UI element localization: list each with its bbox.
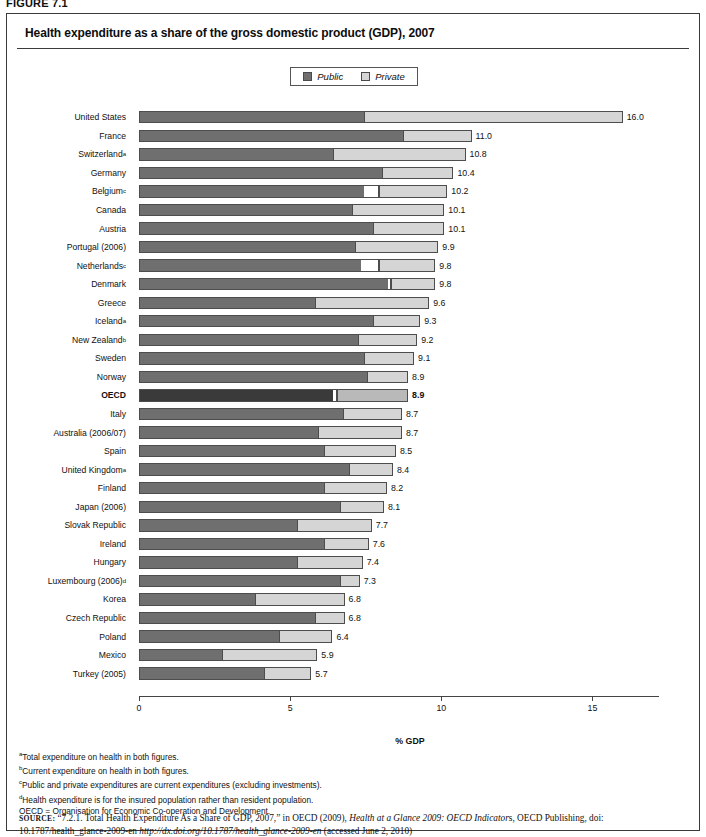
stacked-bar <box>139 352 414 364</box>
bar-value-label: 10.1 <box>448 205 465 215</box>
bar-area: 8.9 <box>139 368 701 387</box>
legend-swatch-private-icon <box>361 72 370 81</box>
legend-label-public: Public <box>317 71 343 82</box>
country-label: Austria <box>7 219 132 238</box>
x-axis-line <box>139 696 659 697</box>
bar-area: 9.2 <box>139 331 701 350</box>
country-label: Ireland <box>7 535 132 554</box>
bar-segment-private <box>222 650 317 660</box>
bar-area: 10.2 <box>139 182 701 201</box>
country-label: Korea <box>7 590 132 609</box>
country-label: Greece <box>7 293 132 312</box>
title-divider <box>17 48 689 49</box>
x-axis-tick-label: 10 <box>436 703 446 713</box>
country-label: Spain <box>7 442 132 461</box>
bar-segment-public <box>140 502 340 512</box>
chart-row: Greece9.6 <box>7 293 701 312</box>
stacked-bar <box>139 371 408 383</box>
bar-segment-public <box>140 464 349 474</box>
stacked-bar <box>139 204 444 216</box>
bar-segment-public <box>140 279 388 289</box>
bar-area: 8.7 <box>139 423 701 442</box>
bar-area: 8.2 <box>139 479 701 498</box>
bar-value-label: 7.3 <box>364 576 376 586</box>
bar-value-label: 9.8 <box>439 261 451 271</box>
bar-segment-private <box>373 223 444 233</box>
bar-segment-public <box>140 242 355 252</box>
chart-row: Netherlandsc9.8 <box>7 256 701 275</box>
bar-segment-gap <box>364 186 379 196</box>
bar-value-label: 6.4 <box>336 632 348 642</box>
bar-segment-public <box>140 335 358 345</box>
bar-segment-public <box>140 409 343 419</box>
bar-segment-private <box>324 483 386 493</box>
bar-segment-public <box>140 576 340 586</box>
bar-segment-public <box>140 260 361 270</box>
bar-segment-private <box>324 539 367 549</box>
stacked-bar <box>139 612 345 624</box>
source-citation: SOURCE: “7.2.1. Total Health Expenditure… <box>19 812 683 837</box>
stacked-bar <box>139 389 408 401</box>
chart-row: Switzerlanda10.8 <box>7 145 701 164</box>
stacked-bar <box>139 445 396 457</box>
chart-row: OECD8.9 <box>7 386 701 405</box>
bar-value-label: 9.9 <box>442 242 454 252</box>
footnote-marker: d <box>19 794 22 800</box>
bar-area: 9.1 <box>139 349 701 368</box>
x-axis-tick <box>290 696 291 701</box>
country-label: Portugal (2006) <box>7 238 132 257</box>
bar-area: 7.3 <box>139 572 701 591</box>
chart-row: Denmark9.8 <box>7 275 701 294</box>
footnote-marker: a <box>123 318 126 324</box>
bar-segment-public <box>140 390 333 400</box>
bar-segment-private <box>315 613 343 623</box>
stacked-bar <box>139 241 438 253</box>
legend-box: Public Private <box>290 67 417 86</box>
footnote-marker: a <box>123 151 126 157</box>
bar-chart-plot: United States16.0France11.0Switzerlanda1… <box>7 108 701 688</box>
chart-row: United Kingdoma8.4 <box>7 460 701 479</box>
country-label: OECD <box>7 386 132 405</box>
x-axis: 051015 <box>139 696 659 736</box>
source-doi-link[interactable]: http://dx.doi.org/10.1787/health_glance-… <box>139 826 321 836</box>
bar-value-label: 8.9 <box>412 390 424 400</box>
x-axis-tick-label: 0 <box>137 703 142 713</box>
bar-value-label: 6.8 <box>349 613 361 623</box>
bar-segment-public <box>140 427 318 437</box>
bar-segment-public <box>140 353 364 363</box>
bar-segment-public <box>140 205 352 215</box>
chart-row: Italy8.7 <box>7 405 701 424</box>
chart-row: Australia (2006/07)8.7 <box>7 423 701 442</box>
bar-segment-private <box>340 576 359 586</box>
bar-segment-public <box>140 557 297 567</box>
bar-segment-public <box>140 594 255 604</box>
figure-number: FIGURE 7.1 <box>6 0 68 9</box>
bar-segment-public <box>140 446 324 456</box>
bar-segment-private <box>379 186 447 196</box>
bar-value-label: 10.8 <box>470 149 487 159</box>
chart-row: Sweden9.1 <box>7 349 701 368</box>
chart-row: Spain8.5 <box>7 442 701 461</box>
chart-row: Belgiumc10.2 <box>7 182 701 201</box>
stacked-bar <box>139 593 345 605</box>
stacked-bar <box>139 148 466 160</box>
bar-area: 9.3 <box>139 312 701 331</box>
bar-segment-public <box>140 112 364 122</box>
footnotes: aTotal expenditure on health in both fig… <box>19 749 679 817</box>
country-label: Sweden <box>7 349 132 368</box>
stacked-bar <box>139 111 623 123</box>
bar-value-label: 8.5 <box>400 446 412 456</box>
bar-area: 9.6 <box>139 293 701 312</box>
stacked-bar <box>139 501 384 513</box>
bar-area: 10.8 <box>139 145 701 164</box>
footnote-marker: a <box>123 467 126 473</box>
bar-segment-private <box>373 316 419 326</box>
bar-segment-public <box>140 223 373 233</box>
stacked-bar <box>139 426 402 438</box>
bar-area: 10.4 <box>139 164 701 183</box>
chart-row: Norway8.9 <box>7 368 701 387</box>
country-label: Australia (2006/07) <box>7 423 132 442</box>
chart-row: Austria10.1 <box>7 219 701 238</box>
bar-segment-private <box>382 168 453 178</box>
bar-segment-public <box>140 631 279 641</box>
